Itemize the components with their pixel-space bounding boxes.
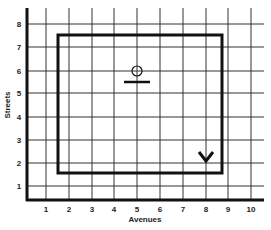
svg-text:6: 6 [158,205,163,214]
svg-text:7: 7 [181,205,186,214]
svg-text:2: 2 [67,205,72,214]
svg-text:5: 5 [135,205,140,214]
x-axis-ticks: 1 2 3 4 5 6 7 8 9 10 [44,205,256,214]
svg-text:6: 6 [17,67,22,76]
svg-text:7: 7 [17,43,22,52]
grid-lines [27,8,264,200]
x-axis-label: Avenues [128,215,162,224]
svg-text:3: 3 [17,136,22,145]
svg-text:3: 3 [90,205,95,214]
svg-text:9: 9 [226,205,231,214]
y-axis-ticks: 1 2 3 4 5 6 7 8 [17,20,22,191]
y-axis-label: Streets [3,91,12,119]
svg-text:10: 10 [247,205,256,214]
street-grid-diagram: 1 2 3 4 5 6 7 8 9 10 1 2 3 4 5 6 7 8 Ave… [0,0,271,230]
svg-text:1: 1 [44,205,49,214]
svg-text:8: 8 [17,20,22,29]
svg-text:8: 8 [204,205,209,214]
svg-text:4: 4 [17,113,22,122]
svg-text:2: 2 [17,159,22,168]
svg-text:4: 4 [112,205,117,214]
svg-text:5: 5 [17,89,22,98]
route-rectangle [58,35,222,173]
svg-text:1: 1 [17,182,22,191]
